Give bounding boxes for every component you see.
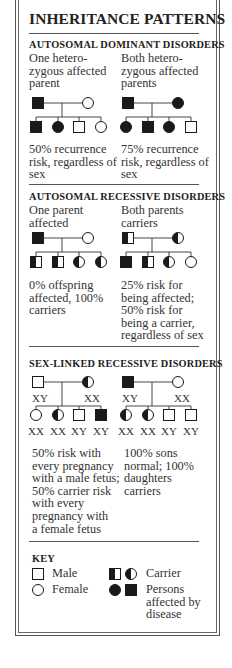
- page-title: INHERITANCE PATTERNS: [29, 10, 225, 28]
- key-label-affected: Persons affected by disease: [146, 583, 201, 621]
- caption-sl-carrier-mother: 50% risk with every pregnancy with a mal…: [32, 447, 120, 535]
- caption-ad-one-parent: 50% recurrence risk, regardless of sex: [29, 143, 117, 181]
- svg-text:XY: XY: [183, 425, 199, 437]
- section-divider: [29, 346, 199, 347]
- key-label-female: Female: [52, 583, 88, 596]
- affected-symbols-icon: [108, 583, 148, 598]
- svg-text:XY: XY: [32, 392, 48, 404]
- svg-text:XX: XX: [118, 425, 134, 437]
- svg-text:XY: XY: [93, 425, 109, 437]
- svg-text:XY: XY: [161, 425, 177, 437]
- title-divider: [29, 33, 199, 34]
- section-divider: [29, 541, 199, 542]
- case-label-ar-both-carriers: Both parents carriers: [121, 204, 184, 229]
- case-label-ad-one-parent: One hetero- zygous affected parent: [29, 52, 106, 90]
- pedigree-ar-one-parent: [28, 229, 110, 269]
- pedigree-ar-both-carriers: [118, 229, 200, 269]
- svg-text:XX: XX: [28, 425, 44, 437]
- key-heading: KEY: [32, 553, 55, 564]
- svg-text:XY: XY: [122, 392, 138, 404]
- section-heading-sex-linked-recessive: SEX-LINKED RECESSIVE DISORDERS: [29, 358, 223, 369]
- caption-ar-one-parent: 0% offspring affected, 100% carriers: [29, 279, 103, 317]
- svg-text:XY: XY: [71, 425, 87, 437]
- carrier-symbols-icon: [108, 567, 148, 582]
- case-label-ar-one-parent: One parent affected: [29, 204, 83, 229]
- pedigree-sl-carrier-mother: XYXXXXXXXYXY: [28, 373, 110, 437]
- pedigree-ad-both-parents: [118, 94, 200, 134]
- section-heading-autosomal-dominant: AUTOSOMAL DOMINANT DISORDERS: [29, 39, 225, 50]
- caption-sl-affected-father: 100% sons normal; 100% daughters carrier…: [124, 447, 194, 497]
- caption-ad-both-parents: 75% recurrence risk, regardless of sex: [121, 143, 209, 181]
- caption-ar-both-carriers: 25% risk for being affected; 50% risk fo…: [121, 279, 204, 342]
- svg-text:XX: XX: [174, 392, 190, 404]
- key-label-carrier: Carrier: [146, 567, 181, 580]
- pedigree-sl-affected-father: XYXXXXXXXYXY: [118, 373, 200, 437]
- case-label-ad-both-parents: Both hetero- zygous affected parents: [121, 52, 198, 90]
- svg-text:XX: XX: [140, 425, 156, 437]
- svg-text:XX: XX: [50, 425, 66, 437]
- svg-text:XX: XX: [84, 392, 100, 404]
- key-label-male: Male: [52, 567, 77, 580]
- section-heading-autosomal-recessive: AUTOSOMAL RECESSIVE DISORDERS: [29, 191, 225, 202]
- section-divider: [29, 184, 199, 185]
- pedigree-ad-one-parent: [28, 94, 110, 134]
